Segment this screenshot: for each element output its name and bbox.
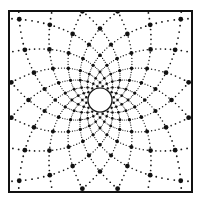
spiral-dot <box>102 80 103 81</box>
spiral-dot <box>127 68 128 69</box>
spiral-dot <box>122 88 123 89</box>
spiral-dot <box>97 119 98 120</box>
intersection-dot <box>98 143 102 147</box>
spiral-dot <box>80 115 81 116</box>
spiral-dot <box>48 34 50 36</box>
spiral-dot <box>67 138 68 139</box>
spiral-dot <box>150 113 151 114</box>
spiral-dot <box>36 128 38 130</box>
spiral-dot <box>82 90 83 91</box>
spiral-dot <box>71 109 72 110</box>
spiral-dot <box>0 110 2 112</box>
spiral-dot <box>116 98 117 99</box>
spiral-dot <box>186 147 188 149</box>
spiral-dot <box>67 58 68 59</box>
spiral-dot <box>49 86 50 87</box>
intersection-dot <box>86 86 89 89</box>
spiral-dot <box>74 69 75 70</box>
spiral-dot <box>110 198 112 199</box>
intersection-dot <box>47 47 52 52</box>
spiral-dot <box>86 139 87 140</box>
spiral-dot <box>54 198 56 199</box>
spiral-dot <box>48 39 50 41</box>
spiral-dot <box>60 86 61 87</box>
spiral-dot <box>103 24 105 26</box>
spiral-dot <box>98 69 99 70</box>
spiral-dot <box>131 141 132 142</box>
spiral-dot <box>131 61 132 62</box>
spiral-dot <box>171 58 173 60</box>
spiral-dot <box>120 37 122 39</box>
spiral-dot <box>82 160 83 161</box>
intersection-dot <box>118 118 121 121</box>
intersection-dot <box>115 186 120 191</box>
spiral-dot <box>74 28 76 30</box>
spiral-dot <box>165 150 167 152</box>
intersection-dot <box>42 109 46 113</box>
spiral-dot <box>115 54 116 55</box>
spiral-dot <box>73 145 74 146</box>
spiral-dot <box>85 193 87 195</box>
spiral-dot <box>115 105 116 106</box>
spiral-dot <box>150 34 152 36</box>
spiral-dot <box>126 3 128 5</box>
spiral-dot <box>50 56 52 58</box>
spiral-dot <box>167 178 169 180</box>
spiral-dot <box>120 142 121 143</box>
spiral-dot <box>122 79 123 80</box>
spiral-dot <box>135 51 136 52</box>
spiral-dot <box>137 111 138 112</box>
intersection-dot <box>22 148 27 153</box>
intersection-dot <box>87 91 89 93</box>
spiral-dot <box>31 20 33 22</box>
spiral-dot <box>86 60 87 61</box>
spiral-dot <box>19 121 21 123</box>
intersection-dot <box>87 153 91 157</box>
spiral-dot <box>158 129 160 131</box>
spiral-dot <box>76 107 77 108</box>
spiral-dot <box>53 173 55 175</box>
spiral-dot <box>70 40 72 42</box>
intersection-dot <box>77 94 80 97</box>
spiral-dot <box>60 95 61 96</box>
spiral-dot <box>56 79 57 80</box>
spiral-dot <box>137 94 138 95</box>
intersection-dot <box>42 87 46 91</box>
spiral-dot <box>114 127 115 128</box>
spiral-dot <box>113 49 114 50</box>
spiral-dot <box>121 179 123 181</box>
spiral-dot <box>144 83 145 84</box>
spiral-dot <box>56 120 57 121</box>
spiral-dot <box>3 72 5 74</box>
intersection-dot <box>128 79 131 82</box>
spiral-dot <box>137 88 138 89</box>
spiral-dot <box>69 90 70 91</box>
spiral-dot <box>71 36 73 38</box>
spiral-dot <box>87 120 88 121</box>
intersection-dot <box>92 115 95 118</box>
spiral-dot <box>132 0 134 2</box>
spiral-dot <box>12 147 14 149</box>
intersection-dot <box>80 111 83 114</box>
intersection-dot <box>118 128 121 131</box>
spiral-dot <box>89 87 90 88</box>
intersection-dot <box>102 85 104 87</box>
spiral-dot <box>120 112 121 113</box>
spiral-dot <box>43 150 45 152</box>
spiral-dot <box>68 72 69 73</box>
spiral-dot <box>79 112 80 113</box>
spiral-dot <box>17 109 19 111</box>
spiral-dot <box>95 67 96 68</box>
spiral-dot <box>95 132 96 133</box>
spiral-dot <box>119 67 120 68</box>
spiral-dot <box>69 125 70 126</box>
spiral-dot <box>36 71 38 73</box>
spiral-dot <box>0 54 2 56</box>
spiral-dot <box>124 79 125 80</box>
spiral-dot <box>93 162 94 163</box>
intersection-dot <box>79 69 82 72</box>
spiral-dot <box>110 87 111 88</box>
spiral-dot <box>44 69 45 70</box>
spiral-dot <box>77 69 78 70</box>
spiral-dot <box>176 155 178 157</box>
